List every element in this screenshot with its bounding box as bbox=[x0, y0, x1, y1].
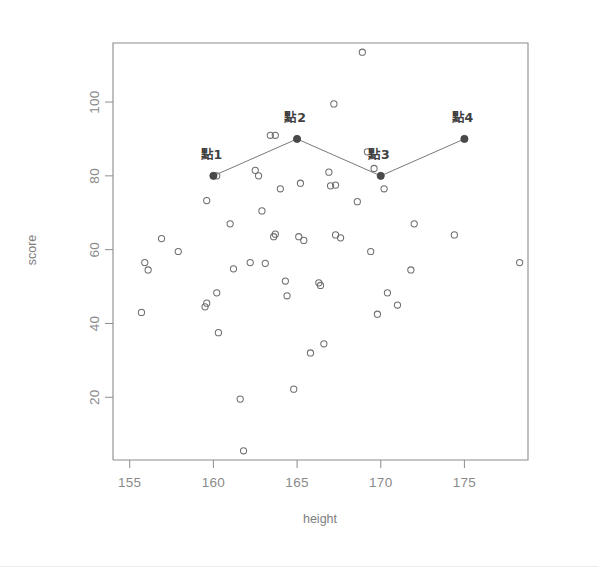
selected-point bbox=[210, 172, 217, 179]
scatter-plot-figure: 155160165170175 20406080100 點1點2點3點4 hei… bbox=[0, 0, 598, 570]
selected-point bbox=[461, 135, 468, 142]
x-tick-label: 155 bbox=[118, 475, 141, 490]
selected-point-label-1: 點1 bbox=[201, 147, 223, 162]
y-tick-label: 40 bbox=[88, 316, 103, 332]
x-tick-label: 175 bbox=[453, 475, 476, 490]
selected-point-label-3: 點3 bbox=[368, 147, 390, 162]
y-tick-label: 100 bbox=[88, 90, 103, 113]
y-axis-title: score bbox=[25, 235, 39, 266]
plot-canvas: 155160165170175 20406080100 點1點2點3點4 hei… bbox=[0, 0, 598, 570]
selected-point-label-4: 點4 bbox=[452, 110, 474, 125]
y-tick-label: 60 bbox=[88, 242, 103, 258]
x-axis-title: height bbox=[303, 512, 338, 526]
selected-point bbox=[377, 172, 384, 179]
selected-point-label-2: 點2 bbox=[284, 110, 306, 125]
x-tick-label: 170 bbox=[369, 475, 392, 490]
y-tick-label: 80 bbox=[88, 168, 103, 184]
x-tick-label: 160 bbox=[202, 475, 225, 490]
selected-point bbox=[293, 135, 300, 142]
y-tick-label: 20 bbox=[88, 389, 103, 405]
x-tick-label: 165 bbox=[285, 475, 308, 490]
